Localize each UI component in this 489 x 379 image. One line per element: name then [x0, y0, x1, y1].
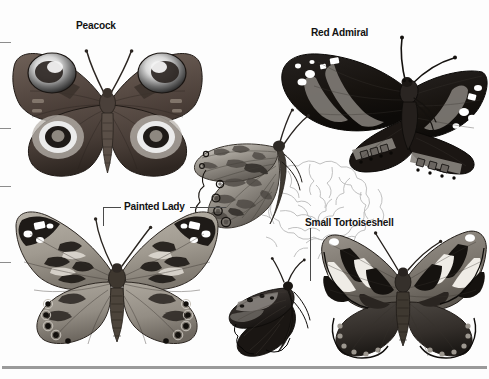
- leader-small-tortoiseshell-vertical: [310, 228, 311, 281]
- edge-tick-bottom: [0, 262, 11, 263]
- butterfly-plate: Peacock Red Admiral Painted Lady Small T…: [0, 0, 489, 379]
- specimen-small-tortoiseshell: [320, 218, 489, 364]
- specimen-peacock: [8, 33, 206, 181]
- label-red-admiral: Red Admiral: [311, 26, 368, 38]
- label-small-tortoiseshell: Small Tortoiseshell: [305, 216, 394, 228]
- label-peacock: Peacock: [76, 19, 116, 31]
- edge-tick-lower: [0, 186, 11, 187]
- edge-tick-top: [0, 42, 11, 43]
- leader-painted-lady-left-vertical: [103, 207, 104, 226]
- specimen-small-tortoiseshell-underside: [226, 258, 326, 362]
- label-painted-lady: Painted Lady: [124, 200, 185, 212]
- specimen-painted-lady: [4, 196, 230, 352]
- leader-painted-lady-right-horizontal: [190, 207, 226, 208]
- bottom-rule: [2, 366, 487, 369]
- leader-painted-lady-left-horizontal: [103, 207, 121, 208]
- edge-tick-middle: [0, 128, 11, 129]
